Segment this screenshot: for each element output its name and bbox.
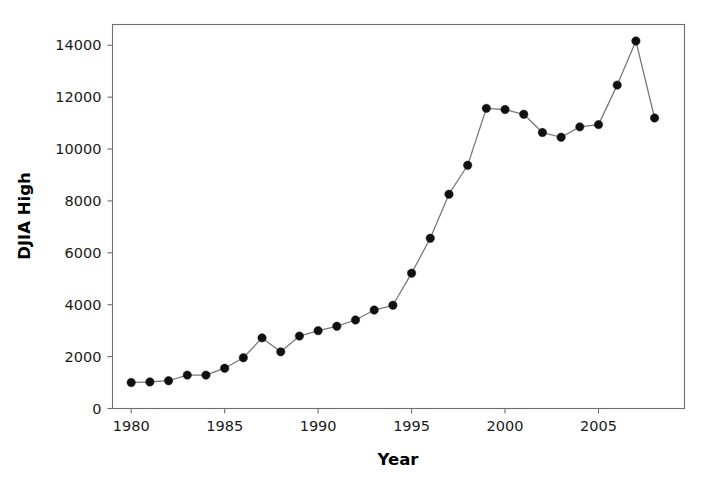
data-point <box>333 322 341 330</box>
series-markers-djia-high <box>127 37 659 387</box>
data-point <box>594 120 602 128</box>
data-point <box>557 133 565 141</box>
x-tick-label: 2005 <box>580 418 617 434</box>
data-point <box>258 334 266 342</box>
data-point <box>277 348 285 356</box>
y-tick-label: 14000 <box>55 37 101 53</box>
y-tick-label: 12000 <box>55 89 101 105</box>
data-point <box>220 364 228 372</box>
data-point <box>482 104 490 112</box>
y-tick-label: 6000 <box>65 245 102 261</box>
y-tick-label: 10000 <box>55 141 101 157</box>
series-line-djia-high <box>131 41 654 383</box>
x-axis-title: Year <box>377 450 420 469</box>
data-series-djia-high <box>127 37 659 387</box>
plot-frame <box>113 25 685 409</box>
data-point <box>407 269 415 277</box>
data-point <box>426 234 434 242</box>
x-tick-label: 1980 <box>113 418 150 434</box>
x-axis-ticks: 198019851990199520002005 <box>113 409 617 434</box>
data-point <box>463 161 471 169</box>
y-tick-label: 2000 <box>65 349 102 365</box>
data-point <box>351 316 359 324</box>
data-point <box>239 354 247 362</box>
data-point <box>127 378 135 386</box>
data-point <box>183 371 191 379</box>
data-point <box>520 110 528 118</box>
x-tick-label: 1990 <box>300 418 337 434</box>
data-point <box>202 371 210 379</box>
x-tick-label: 2000 <box>487 418 524 434</box>
data-point <box>613 81 621 89</box>
y-axis-ticks: 02000400060008000100001200014000 <box>55 37 112 416</box>
data-point <box>632 37 640 45</box>
data-point <box>295 332 303 340</box>
x-tick-label: 1995 <box>393 418 430 434</box>
y-tick-label: 8000 <box>65 193 102 209</box>
djia-high-line-chart: 02000400060008000100001200014000 1980198… <box>0 0 710 478</box>
data-point <box>538 128 546 136</box>
chart-canvas: 02000400060008000100001200014000 1980198… <box>0 0 710 478</box>
data-point <box>501 105 509 113</box>
data-point <box>650 114 658 122</box>
data-point <box>445 190 453 198</box>
y-tick-label: 0 <box>92 401 101 417</box>
data-point <box>146 378 154 386</box>
x-tick-label: 1985 <box>206 418 243 434</box>
data-point <box>576 123 584 131</box>
y-tick-label: 4000 <box>65 297 102 313</box>
y-axis-title: DJIA High <box>15 172 34 260</box>
data-point <box>314 326 322 334</box>
data-point <box>370 306 378 314</box>
data-point <box>389 301 397 309</box>
data-point <box>164 377 172 385</box>
